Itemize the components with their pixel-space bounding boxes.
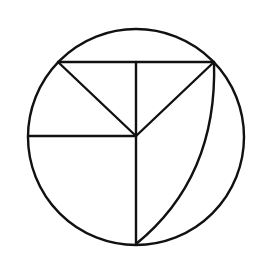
line-segments [28,62,214,244]
curved-arc [136,62,214,244]
top-left-to-center [58,62,136,136]
geometry-diagram [0,0,271,277]
top-right-to-center [136,62,214,136]
